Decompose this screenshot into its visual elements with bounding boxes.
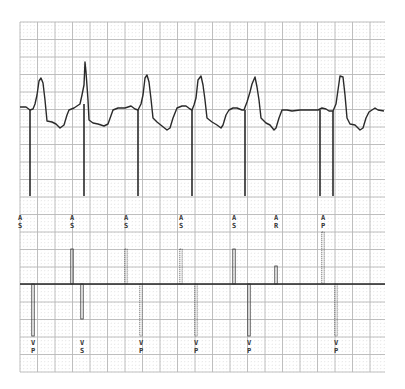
ventricular-marker	[81, 284, 83, 319]
pacing-spikes	[30, 104, 333, 196]
atrial-marker-label: P	[321, 222, 325, 230]
ventricular-marker	[195, 284, 197, 336]
ventricular-marker-label: S	[80, 347, 84, 355]
ventricular-marker	[248, 284, 250, 336]
atrial-marker	[322, 232, 324, 284]
atrial-marker-label: S	[179, 222, 183, 230]
atrial-marker	[71, 249, 73, 284]
atrial-marker-label: S	[124, 222, 128, 230]
ecg-grid-major	[20, 22, 385, 372]
ventricular-marker-label: V	[194, 339, 199, 347]
atrial-marker	[180, 249, 182, 284]
atrial-marker-label: A	[18, 214, 23, 222]
atrial-marker	[233, 249, 235, 284]
ventricular-marker	[32, 284, 34, 336]
atrial-marker-label: A	[70, 214, 75, 222]
ventricular-marker-label: V	[139, 339, 144, 347]
ventricular-marker-label: V	[80, 339, 85, 347]
atrial-marker-label: A	[274, 214, 279, 222]
atrial-marker-label: A	[232, 214, 237, 222]
ventricular-marker-label: V	[334, 339, 339, 347]
ventricular-marker-label: P	[139, 347, 143, 355]
ventricular-marker-label: V	[247, 339, 252, 347]
pacemaker-ecg-strip: ASASASASASARAPVPVSVPVPVPVP	[0, 0, 405, 389]
atrial-marker-label: R	[274, 222, 279, 230]
marker-channel	[20, 232, 385, 336]
ventricular-marker-label: P	[247, 347, 251, 355]
ventricular-marker	[140, 284, 142, 336]
ventricular-marker	[335, 284, 337, 336]
atrial-marker-label: S	[232, 222, 236, 230]
atrial-marker	[275, 266, 277, 284]
ventricular-marker-label: V	[31, 339, 36, 347]
atrial-marker-label: A	[124, 214, 129, 222]
ventricular-marker-label: P	[31, 347, 35, 355]
atrial-marker-label: S	[18, 222, 22, 230]
ventricular-marker-label: P	[334, 347, 338, 355]
atrial-marker-label: S	[70, 222, 74, 230]
ventricular-marker-label: P	[194, 347, 198, 355]
atrial-marker-label: A	[179, 214, 184, 222]
